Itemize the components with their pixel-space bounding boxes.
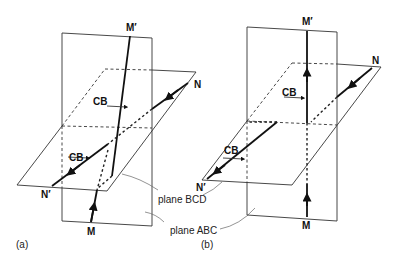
label-m-prime-b: M′	[302, 16, 313, 27]
caption-a: (a)	[16, 239, 28, 250]
label-cb-lower-b: CB	[224, 145, 238, 156]
label-m-a: M	[87, 226, 95, 237]
label-cb-lower-a: CB	[69, 152, 83, 163]
cb-arrow-upper-a	[107, 106, 126, 107]
cb-arrow-lower-b	[223, 158, 243, 159]
plane-bcd-a	[17, 69, 196, 191]
crystal-planes-diagram: M′ M N N′ CB CB (a) plane BCD plane ABC	[0, 0, 398, 264]
leader-plane-bcd-a	[122, 174, 158, 190]
panel-b: M′ M N N′ CB CB (b)	[196, 16, 381, 250]
plane-abc-a	[62, 33, 152, 226]
plane-bcd-b	[202, 63, 381, 185]
label-cb-upper-a: CB	[93, 96, 107, 107]
label-n-a: N	[194, 79, 201, 90]
line-nn-b	[207, 68, 372, 179]
label-n-b: N	[372, 55, 379, 66]
leader-plane-abc-b	[220, 208, 255, 229]
label-m-prime-a: M′	[126, 22, 137, 33]
plane-abc-b	[247, 27, 337, 221]
line-mm-a	[91, 36, 130, 222]
leader-plane-abc-a	[145, 212, 164, 222]
callout-plane-abc: plane ABC	[170, 225, 217, 236]
label-m-b: M	[302, 220, 310, 231]
panel-a: M′ M N N′ CB CB (a)	[16, 22, 201, 250]
label-cb-upper-b: CB	[282, 87, 296, 98]
line-nn-a	[52, 83, 188, 186]
callout-plane-bcd: plane BCD	[158, 194, 206, 205]
caption-b: (b)	[201, 239, 213, 250]
label-n-prime-a: N′	[41, 189, 51, 200]
label-n-prime-b: N′	[196, 182, 206, 193]
